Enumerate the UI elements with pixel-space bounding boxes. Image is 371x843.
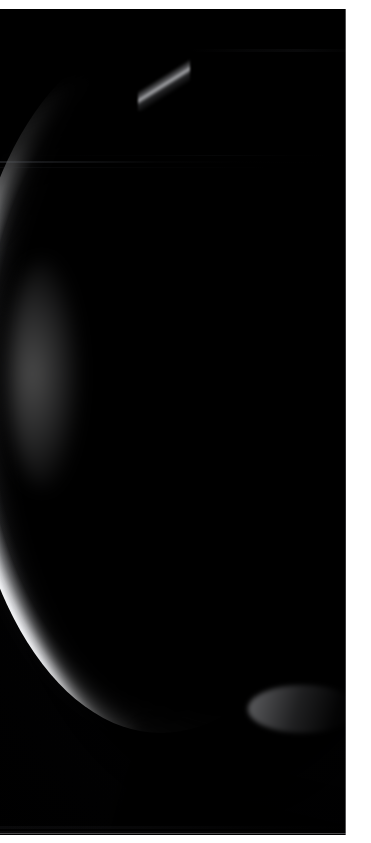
photographic-plate <box>0 9 346 835</box>
page-margin-bottom <box>0 835 371 843</box>
image-canvas <box>0 0 371 843</box>
plate-edge-hairline-bottom <box>0 833 346 834</box>
limb-brightest-region <box>8 259 78 489</box>
upper-cusp-streak <box>138 53 190 111</box>
page-margin-top <box>0 0 371 9</box>
page-margin-right <box>346 0 371 843</box>
plate-edge-hairline-right <box>345 9 346 835</box>
crescent-assembly <box>0 9 346 835</box>
